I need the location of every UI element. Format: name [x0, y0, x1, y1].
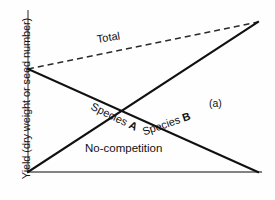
y-axis-label: Yield (dry weight or seed number): [21, 10, 32, 188]
figure-root: Yield (dry weight or seed number) Total …: [0, 0, 275, 200]
panel-label: (a): [209, 98, 222, 109]
no-competition-label: No-competition: [85, 143, 162, 155]
plot-area: [0, 0, 275, 200]
species-a-line: [28, 69, 258, 172]
